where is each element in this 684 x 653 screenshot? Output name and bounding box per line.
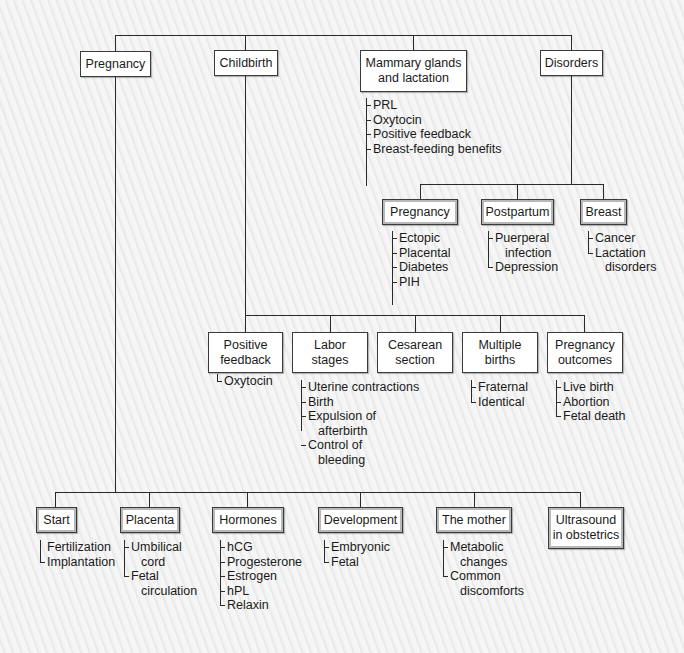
node-label: Pregnancy bbox=[83, 57, 149, 72]
node-label: Placenta bbox=[123, 513, 178, 528]
node-disorders-pregnancy: Pregnancy bbox=[382, 199, 458, 225]
node-label: Multiple births bbox=[475, 338, 524, 368]
node-label: Ultrasound in obstetrics bbox=[550, 513, 623, 543]
list-item: Umbilical bbox=[124, 540, 197, 555]
mammary-list: PRL Oxytocin Positive feedback Breast-fe… bbox=[366, 98, 502, 156]
list-item: Fetal bbox=[324, 555, 390, 570]
list-item: Fetal bbox=[124, 569, 197, 584]
node-mammary-glands: Mammary glands and lactation bbox=[360, 50, 467, 92]
list-item-continued: disorders bbox=[588, 260, 656, 275]
list-item: Diabetes bbox=[392, 260, 450, 275]
connector bbox=[115, 35, 572, 36]
disorders-postpartum-list: Puerperal infection Depression bbox=[488, 231, 558, 275]
list-item: Lactation bbox=[588, 246, 656, 261]
connector bbox=[571, 35, 572, 50]
list-item-continued: bleeding bbox=[301, 453, 419, 468]
connector bbox=[500, 315, 501, 332]
list-item: hCG bbox=[220, 540, 302, 555]
list-item: Abortion bbox=[556, 395, 626, 410]
list-item: Oxytocin bbox=[217, 374, 273, 389]
list-item: Ectopic bbox=[392, 231, 450, 246]
node-label: Labor stages bbox=[309, 338, 352, 368]
node-label: Disorders bbox=[542, 56, 602, 71]
list-item: Live birth bbox=[556, 380, 626, 395]
node-label: Development bbox=[321, 513, 401, 528]
disorders-breast-list: Cancer Lactation disorders bbox=[588, 231, 656, 275]
node-label: Breast bbox=[582, 205, 624, 220]
node-the-mother: The mother bbox=[436, 507, 512, 533]
list-item: Estrogen bbox=[220, 569, 302, 584]
pregnancy-concept-map: Pregnancy Childbirth Mammary glands and … bbox=[0, 0, 684, 653]
connector bbox=[413, 35, 414, 50]
list-item: Fraternal bbox=[471, 380, 528, 395]
list-item-continued: circulation bbox=[124, 584, 197, 599]
connector bbox=[149, 492, 150, 507]
hormones-list: hCG Progesterone Estrogen hPL Relaxin bbox=[220, 540, 302, 613]
list-item: Identical bbox=[471, 395, 528, 410]
connector bbox=[245, 76, 246, 315]
connector bbox=[245, 35, 246, 50]
labor-stages-list: Uterine contractions Birth Expulsion of … bbox=[301, 380, 419, 467]
list-item-continued: afterbirth bbox=[301, 424, 419, 439]
list-item: Progesterone bbox=[220, 555, 302, 570]
list-item: Fertilization bbox=[40, 540, 115, 555]
list-item: Metabolic bbox=[443, 540, 524, 555]
list-item: Puerperal bbox=[488, 231, 558, 246]
node-label: Positive feedback bbox=[217, 338, 274, 368]
connector bbox=[584, 315, 585, 332]
list-item: Positive feedback bbox=[366, 127, 502, 142]
connector bbox=[115, 35, 116, 51]
node-label: Hormones bbox=[216, 513, 280, 528]
connector bbox=[247, 492, 248, 507]
connector bbox=[415, 315, 416, 332]
connector bbox=[580, 492, 581, 507]
list-item: Implantation bbox=[40, 555, 115, 570]
connector bbox=[115, 77, 116, 492]
list-item: PIH bbox=[392, 275, 450, 290]
list-item: Control of bbox=[301, 438, 419, 453]
connector bbox=[571, 76, 572, 184]
positive-feedback-list: Oxytocin bbox=[217, 374, 273, 389]
node-label: Postpartum bbox=[483, 205, 553, 220]
node-label: Childbirth bbox=[217, 56, 276, 71]
list-item: hPL bbox=[220, 584, 302, 599]
connector bbox=[330, 315, 331, 332]
node-cesarean-section: Cesarean section bbox=[377, 332, 453, 373]
start-list: Fertilization Implantation bbox=[40, 540, 115, 569]
placenta-list: Umbilical cord Fetal circulation bbox=[124, 540, 197, 598]
list-item: Oxytocin bbox=[366, 113, 502, 128]
list-item: Fetal death bbox=[556, 409, 626, 424]
list-item: Cancer bbox=[588, 231, 656, 246]
node-development: Development bbox=[318, 507, 403, 533]
connector bbox=[474, 492, 475, 507]
connector bbox=[603, 184, 604, 199]
pregnancy-outcomes-list: Live birth Abortion Fetal death bbox=[556, 380, 626, 424]
connector bbox=[360, 492, 361, 507]
connector bbox=[245, 315, 246, 332]
disorders-pregnancy-list: Ectopic Placental Diabetes PIH bbox=[392, 231, 450, 289]
node-label: Cesarean section bbox=[385, 338, 445, 368]
connector bbox=[420, 184, 604, 185]
list-item: PRL bbox=[366, 98, 502, 113]
connector bbox=[517, 184, 518, 199]
node-disorders-breast: Breast bbox=[580, 199, 627, 225]
node-hormones: Hormones bbox=[212, 507, 284, 533]
node-placenta: Placenta bbox=[120, 507, 180, 533]
list-item: Uterine contractions bbox=[301, 380, 419, 395]
node-disorders: Disorders bbox=[540, 50, 603, 76]
node-labor-stages: Labor stages bbox=[292, 332, 368, 373]
node-label: Start bbox=[40, 513, 72, 528]
the-mother-list: Metabolic changes Common discomforts bbox=[443, 540, 524, 598]
node-label: The mother bbox=[439, 513, 509, 528]
node-ultrasound: Ultrasound in obstetrics bbox=[548, 507, 624, 549]
node-multiple-births: Multiple births bbox=[462, 332, 538, 373]
node-disorders-postpartum: Postpartum bbox=[481, 199, 554, 225]
list-item: Relaxin bbox=[220, 598, 302, 613]
list-item: Embryonic bbox=[324, 540, 390, 555]
node-start: Start bbox=[36, 507, 77, 533]
node-childbirth: Childbirth bbox=[214, 50, 278, 76]
connector bbox=[420, 184, 421, 199]
node-positive-feedback: Positive feedback bbox=[208, 332, 283, 373]
node-label: Pregnancy bbox=[387, 205, 453, 220]
list-item: Common bbox=[443, 569, 524, 584]
